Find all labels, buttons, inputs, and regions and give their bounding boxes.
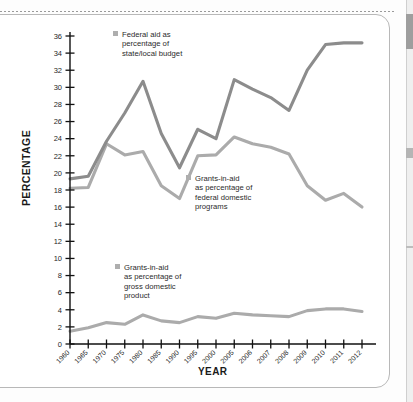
series-line-2 [70,309,362,331]
y-tick-label: 14 [54,220,62,229]
legend-federal-line-1: Federal aid as [113,30,182,39]
legend-swatch-icon [115,264,120,269]
dotted-rule [0,11,396,12]
legend-gdp-line-2: as percentage of [115,272,181,281]
legend-swatch-icon [113,31,118,36]
vertical-scrollbar[interactable] [406,0,413,402]
y-tick-label: 24 [54,134,62,143]
x-tick-label: 1965 [73,349,89,365]
x-tick-label: 1980 [128,349,144,365]
y-tick-label: 18 [54,186,62,195]
x-tick-label: 2007 [255,349,271,365]
x-tick-label: 1975 [109,349,125,365]
y-tick-label: 16 [54,203,62,212]
x-tick-label: 1960 [55,349,71,365]
legend-federal-domestic-programs: Grants-in-aid as percentage of federal d… [186,174,252,211]
y-tick-label: 4 [58,306,62,315]
x-tick-label: 2006 [237,349,253,365]
chart-page: 0246810121416182022242628303234361960196… [0,0,413,402]
legend-federal-aid: Federal aid as percentage of state/local… [113,30,182,58]
y-tick-label: 0 [58,340,62,349]
legend-gdp-line-3: gross domestic [115,282,181,291]
x-tick-label: 2005 [219,349,235,365]
y-tick-label: 20 [54,169,62,178]
legend-gross-domestic-product: Grants-in-aid as percentage of gross dom… [115,263,181,300]
y-tick-label: 26 [54,117,62,126]
legend-gdp-line-1: Grants-in-aid [115,263,181,272]
y-tick-label: 22 [54,152,62,161]
y-tick-label: 2 [58,323,62,332]
legend-swatch-icon [186,175,191,180]
x-tick-label: 1995 [182,349,198,365]
legend-gdp-line-4: product [115,291,181,300]
scrollbar-marker-secondary[interactable] [406,148,413,158]
x-tick-label: 2010 [310,349,326,365]
legend-domestic-text-1: Grants-in-aid [195,174,239,183]
y-tick-label: 34 [54,49,62,58]
x-tick-label: 1970 [91,349,107,365]
y-tick-label: 36 [54,32,62,41]
y-tick-label: 8 [58,271,62,280]
legend-domestic-line-3: federal domestic [186,193,252,202]
x-tick-label: 1985 [146,349,162,365]
scrollbar-thumb[interactable] [406,14,413,49]
legend-federal-text-1: Federal aid as [122,30,171,39]
x-tick-label: 2012 [347,349,363,365]
y-tick-label: 12 [54,237,62,246]
y-tick-label: 28 [54,100,62,109]
legend-domestic-line-1: Grants-in-aid [186,174,252,183]
x-tick-label: 2008 [274,349,290,365]
legend-gdp-text-1: Grants-in-aid [124,263,168,272]
legend-domestic-line-2: as percentage of [186,183,252,192]
y-tick-label: 6 [58,288,62,297]
x-tick-label: 2011 [329,349,345,365]
line-chart: 0246810121416182022242628303234361960196… [0,14,390,388]
y-axis-title: PERCENTAGE [20,130,32,206]
y-tick-label: 32 [54,66,62,75]
x-tick-label: 2000 [201,349,217,365]
legend-domestic-line-4: programs [186,202,252,211]
x-tick-label: 2009 [292,349,308,365]
series-line-0 [70,43,362,179]
legend-federal-line-3: state/local budget [113,49,182,58]
scrollbar-marker-tertiary[interactable] [406,246,413,248]
x-tick-label: 1990 [164,349,180,365]
x-axis-title: YEAR [198,366,227,377]
y-tick-label: 30 [54,83,62,92]
y-tick-label: 10 [54,254,62,263]
legend-federal-line-2: percentage of [113,39,182,48]
